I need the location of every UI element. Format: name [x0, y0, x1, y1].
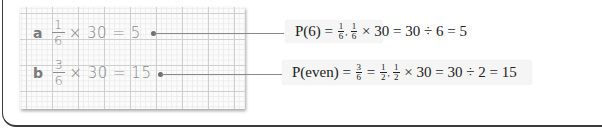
expression: × 30 = 5: [69, 24, 141, 42]
working-row-a: a 1 6 × 30 = 5: [33, 18, 141, 47]
expression: × 30 = 15: [69, 64, 151, 82]
fraction: 1 6: [52, 18, 65, 47]
fraction: 3 6: [53, 58, 66, 87]
fraction: 3 6: [356, 63, 363, 82]
callout-p6: P(6) = 1 6 , 1 6 × 30 = 30 ÷ 6 = 5: [285, 20, 383, 43]
fraction: 1 6: [338, 22, 345, 41]
row-label: b: [33, 65, 44, 81]
callout-peven: P(even) = 3 6 = 1 2 , 1 2 × 30 = 30 ÷ 2 …: [282, 60, 532, 85]
row-label: a: [33, 25, 43, 41]
working-row-b: b 3 6 × 30 = 15: [33, 58, 151, 87]
fraction: 1 2: [393, 63, 400, 82]
connector-line-a: [154, 33, 284, 34]
fraction: 1 6: [351, 22, 358, 41]
fraction: 1 2: [380, 63, 387, 82]
connector-line-b: [161, 74, 283, 75]
